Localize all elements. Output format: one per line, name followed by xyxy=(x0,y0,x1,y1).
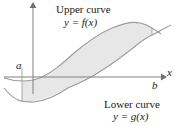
lower-curve-text-label: Lower curve xyxy=(104,99,160,110)
lower-curve-equation-label: y = g(x) xyxy=(113,111,149,122)
right-bound-label-b: b xyxy=(152,80,158,91)
area-between-curves-figure: Upper curve y = f(x) Lower curve y = g(x… xyxy=(0,0,177,125)
shaded-area-between-curves xyxy=(22,22,152,102)
left-bound-label-a: a xyxy=(16,60,22,71)
y-axis-arrowhead-icon xyxy=(30,2,37,8)
x-axis-label: x xyxy=(167,67,172,78)
upper-curve-equation-label: y = f(x) xyxy=(64,17,97,28)
upper-curve-text-label: Upper curve xyxy=(56,4,111,15)
